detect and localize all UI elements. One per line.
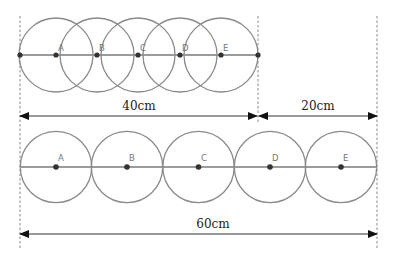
top-point-a — [53, 52, 58, 57]
top-row: A B C D E — [17, 18, 260, 92]
top-label-d: D — [182, 43, 189, 53]
top-right-endpoint — [255, 52, 260, 57]
circles-diagram: A B C D E 40cm 20cm A B C D E 60cm — [0, 0, 395, 262]
label-20cm: 20cm — [301, 99, 335, 113]
bottom-label-c: C — [201, 153, 207, 163]
top-label-b: B — [99, 43, 105, 53]
bottom-label-a: A — [58, 153, 64, 163]
top-left-endpoint — [17, 52, 22, 57]
top-point-d — [177, 52, 182, 57]
bottom-point-d — [267, 164, 273, 170]
bottom-point-b — [124, 164, 130, 170]
top-point-c — [135, 52, 140, 57]
bottom-measurement: 60cm — [20, 217, 377, 234]
bottom-label-d: D — [272, 153, 279, 163]
label-40cm: 40cm — [122, 99, 156, 113]
bottom-label-e: E — [343, 153, 348, 163]
bottom-label-b: B — [129, 153, 135, 163]
top-point-e — [218, 52, 223, 57]
top-label-c: C — [140, 43, 146, 53]
bottom-row: A B C D E — [20, 131, 377, 202]
bottom-point-e — [338, 164, 344, 170]
top-measurements: 40cm 20cm — [20, 99, 377, 116]
top-label-a: A — [58, 43, 64, 53]
bottom-point-a — [53, 164, 59, 170]
bottom-point-c — [196, 164, 202, 170]
top-label-e: E — [223, 43, 228, 53]
label-60cm: 60cm — [196, 217, 230, 231]
top-point-b — [94, 52, 99, 57]
